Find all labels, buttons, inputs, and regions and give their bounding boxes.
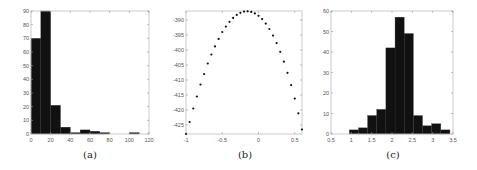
y-tick-label: -395 (173, 32, 184, 38)
x-tick-label: 3 (431, 137, 434, 143)
data-point (254, 12, 256, 14)
histogram-bar (51, 105, 61, 134)
histogram-bar (349, 130, 358, 134)
x-tick-label: 2.5 (409, 137, 417, 143)
y-tick-label: 90 (23, 8, 29, 14)
x-tick-label: 0.5 (327, 137, 335, 143)
histogram-bar (432, 124, 441, 134)
data-point (207, 62, 209, 64)
data-point (250, 11, 252, 13)
data-point (228, 21, 230, 23)
data-point (199, 83, 201, 85)
y-tick-label: 60 (23, 49, 29, 55)
x-tick-label: 0 (29, 137, 32, 143)
histogram-bar (31, 38, 41, 134)
histogram-bar (368, 116, 377, 134)
y-tick-label: -400 (173, 47, 184, 53)
data-point (301, 128, 303, 130)
y-tick-label: 20 (323, 90, 329, 96)
data-point (290, 84, 292, 86)
y-tick-label: 50 (323, 29, 329, 35)
y-tick-label: 60 (323, 8, 329, 14)
histogram-bar (395, 17, 404, 134)
x-tick-label: 80 (107, 137, 113, 143)
data-point (185, 133, 187, 135)
histogram-bar (441, 130, 450, 134)
data-point (232, 17, 234, 19)
scatter-b: -1-0.500.5-390-395-400-405-410-415-420-4… (160, 0, 320, 170)
chart-panel-b: -1-0.500.5-390-395-400-405-410-415-420-4… (160, 0, 320, 170)
x-tick-label: 1.5 (368, 137, 376, 143)
y-tick-label: 0 (26, 131, 29, 137)
x-tick-label: 2 (390, 137, 393, 143)
x-tick-label: 40 (67, 137, 73, 143)
x-tick-label: 60 (87, 137, 93, 143)
histogram-a: 0204060801001200102030405060708090 (0, 0, 160, 170)
data-point (257, 15, 259, 17)
data-point (268, 28, 270, 30)
y-tick-label: -405 (173, 62, 184, 68)
y-tick-label: 40 (23, 76, 29, 82)
data-point (243, 10, 245, 12)
histogram-bar (358, 128, 367, 134)
caption-c: (c) (373, 149, 413, 160)
y-tick-label: 0 (326, 131, 329, 137)
histogram-bar (41, 11, 51, 134)
x-tick-label: -0.5 (218, 137, 227, 143)
histogram-c: 0.511.522.533.50102030405060 (320, 0, 477, 170)
data-point (276, 42, 278, 44)
histogram-bar (61, 127, 71, 134)
data-point (294, 98, 296, 100)
data-point (196, 95, 198, 97)
y-tick-label: -410 (173, 77, 184, 83)
y-tick-label: -390 (173, 17, 184, 23)
x-tick-label: 1 (350, 137, 353, 143)
y-tick-label: 10 (323, 111, 329, 117)
data-point (286, 72, 288, 74)
data-point (203, 73, 205, 75)
y-tick-label: -415 (173, 92, 184, 98)
y-tick-label: 50 (23, 63, 29, 69)
y-tick-label: -420 (173, 107, 184, 113)
x-tick-label: -1 (184, 137, 189, 143)
y-tick-label: 10 (23, 117, 29, 123)
data-point (225, 26, 227, 28)
data-point (221, 31, 223, 33)
histogram-bar (423, 126, 432, 134)
data-point (218, 38, 220, 40)
x-tick-label: 20 (48, 137, 54, 143)
y-tick-label: 40 (323, 49, 329, 55)
data-point (210, 53, 212, 55)
data-point (192, 107, 194, 109)
data-point (214, 45, 216, 47)
y-tick-label: 70 (23, 35, 29, 41)
y-tick-label: 80 (23, 22, 29, 28)
histogram-bar (404, 34, 413, 134)
histogram-bar (386, 48, 395, 134)
caption-b: (b) (225, 149, 265, 160)
axes-frame (186, 11, 302, 134)
chart-panel-c: 0.511.522.533.50102030405060 (320, 0, 477, 170)
x-tick-label: 0.5 (291, 137, 299, 143)
caption-a: (a) (70, 149, 110, 160)
data-point (189, 121, 191, 123)
data-point (265, 23, 267, 25)
histogram-bar (80, 130, 90, 134)
data-point (272, 35, 274, 37)
y-tick-label: 30 (23, 90, 29, 96)
chart-panel-a: 0204060801001200102030405060708090 (0, 0, 160, 170)
y-tick-label: 30 (323, 70, 329, 76)
y-tick-label: -425 (173, 122, 184, 128)
histogram-bar (90, 131, 100, 134)
x-tick-label: 100 (125, 137, 134, 143)
data-point (247, 10, 249, 12)
histogram-bar (377, 109, 386, 134)
x-tick-label: 120 (144, 137, 153, 143)
y-tick-label: 20 (23, 104, 29, 110)
data-point (239, 12, 241, 14)
data-point (279, 51, 281, 53)
data-point (283, 61, 285, 63)
data-point (297, 112, 299, 114)
data-point (261, 18, 263, 20)
histogram-bar (413, 116, 422, 134)
